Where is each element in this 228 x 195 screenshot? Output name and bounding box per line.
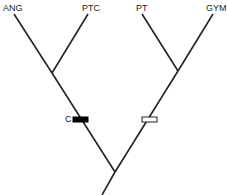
taxon-label-gym: GYM [206,3,227,13]
character-label-c: C [65,114,72,124]
branch-gym [178,14,213,71]
taxon-label-ptc: PTC [82,3,100,13]
taxon-label-ang: ANG [3,3,23,13]
character-bar-ancestral [142,117,157,122]
branch-ptc [52,14,88,73]
character-bar-derived [73,117,88,122]
branch-pt [142,14,178,71]
phylogenetic-tree [0,0,228,195]
taxon-label-pt: PT [136,3,148,13]
root-branch [102,172,115,195]
branch-ang [14,14,52,73]
